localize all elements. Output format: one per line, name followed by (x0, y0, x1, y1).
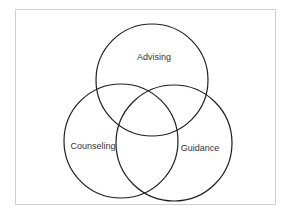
guidance-label: Guidance (181, 143, 220, 153)
advising-label: Advising (137, 52, 171, 62)
counseling-label: Counseling (70, 141, 115, 151)
venn-diagram: Advising Counseling Guidance (0, 0, 289, 216)
advising-circle (96, 24, 208, 136)
